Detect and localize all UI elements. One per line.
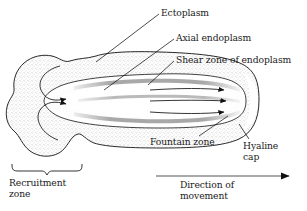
label-ectoplasm: Ectoplasm xyxy=(161,8,209,19)
recruitment-zone-brace xyxy=(12,164,82,175)
label-fountain-zone: Fountain zone xyxy=(150,137,215,148)
figure-canvas: Ectoplasm Axial endoplasm Shear zone of … xyxy=(0,0,307,211)
label-hyaline-cap: Hyaline cap xyxy=(243,141,283,162)
label-shear-zone-of-endoplasm: Shear zone of endoplasm xyxy=(176,55,291,66)
label-direction-of-movement: Direction of movement xyxy=(180,180,258,201)
label-recruitment-zone: Recruitment zone xyxy=(9,178,87,199)
label-axial-endoplasm: Axial endoplasm xyxy=(176,33,251,44)
